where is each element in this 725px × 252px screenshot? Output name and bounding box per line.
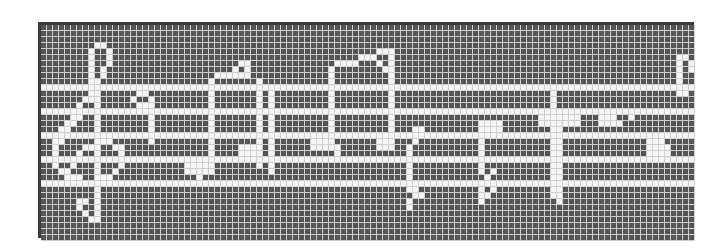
music-grid-frame (38, 22, 694, 238)
grid-cell (689, 235, 695, 241)
pixel-grid (41, 25, 695, 241)
